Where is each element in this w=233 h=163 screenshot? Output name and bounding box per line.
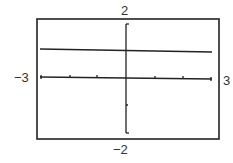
xmin-label: −3 — [14, 71, 29, 84]
ymax-label: 2 — [121, 4, 128, 17]
xmax-label: 3 — [223, 74, 230, 87]
graph-window — [0, 0, 233, 163]
ymin-label: −2 — [113, 143, 128, 156]
